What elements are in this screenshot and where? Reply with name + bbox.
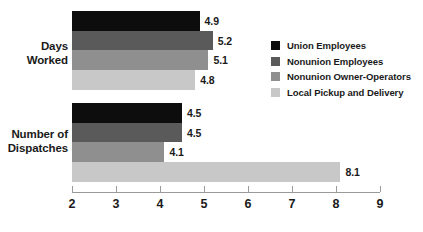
bar bbox=[72, 142, 164, 162]
legend-swatch-icon bbox=[271, 41, 280, 50]
bar bbox=[72, 123, 182, 143]
bar bbox=[72, 162, 340, 182]
legend-item[interactable]: Nonunion Owner-Operators bbox=[271, 69, 411, 85]
legend-item[interactable]: Local Pickup and Delivery bbox=[271, 85, 411, 101]
bar-value-label: 8.1 bbox=[345, 166, 359, 178]
axis-tick bbox=[204, 186, 205, 192]
x-axis-line bbox=[72, 192, 380, 193]
axis-tick bbox=[160, 186, 161, 192]
legend-swatch-icon bbox=[271, 57, 280, 66]
bar-row: 8.1 bbox=[72, 162, 380, 182]
legend-item[interactable]: Nonunion Employees bbox=[271, 54, 411, 70]
bar-row: 4.5 bbox=[72, 123, 380, 143]
axis-tick bbox=[380, 186, 381, 192]
axis-tick bbox=[248, 186, 249, 192]
legend-label: Nonunion Owner-Operators bbox=[287, 71, 411, 82]
legend-item[interactable]: Union Employees bbox=[271, 38, 411, 54]
bar-chart: Days Worked Number of Dispatches 4.95.25… bbox=[0, 0, 423, 232]
legend-label: Union Employees bbox=[287, 40, 366, 51]
bar bbox=[72, 31, 213, 51]
axis-tick-label: 7 bbox=[289, 197, 296, 211]
axis-tick-label: 6 bbox=[245, 197, 252, 211]
legend-swatch-icon bbox=[271, 88, 280, 97]
bar bbox=[72, 103, 182, 123]
bar-value-label: 5.2 bbox=[218, 35, 232, 47]
bar bbox=[72, 70, 195, 90]
category-label-number-of-dispatches: Number of Dispatches bbox=[8, 128, 68, 155]
bar-value-label: 4.9 bbox=[205, 15, 219, 27]
axis-tick bbox=[336, 186, 337, 192]
bar-row: 4.1 bbox=[72, 142, 380, 162]
axis-tick bbox=[292, 186, 293, 192]
bar bbox=[72, 11, 200, 31]
legend-label: Local Pickup and Delivery bbox=[287, 87, 404, 98]
bar-row: 4.9 bbox=[72, 11, 380, 31]
axis-tick-label: 2 bbox=[69, 197, 76, 211]
bar-value-label: 4.5 bbox=[187, 107, 201, 119]
axis-tick-label: 8 bbox=[333, 197, 340, 211]
legend: Union EmployeesNonunion EmployeesNonunio… bbox=[271, 38, 411, 100]
bar-row: 4.5 bbox=[72, 103, 380, 123]
bar-value-label: 4.5 bbox=[187, 127, 201, 139]
category-label-days-worked: Days Worked bbox=[27, 40, 68, 67]
legend-label: Nonunion Employees bbox=[287, 56, 383, 67]
axis-tick-label: 3 bbox=[113, 197, 120, 211]
plot-area: Days Worked Number of Dispatches 4.95.25… bbox=[0, 0, 423, 232]
axis-tick-label: 4 bbox=[157, 197, 164, 211]
bar-value-label: 4.8 bbox=[200, 74, 214, 86]
axis-tick bbox=[116, 186, 117, 192]
legend-swatch-icon bbox=[271, 72, 280, 81]
bar bbox=[72, 50, 208, 70]
axis-tick bbox=[72, 186, 73, 192]
axis-tick-label: 5 bbox=[201, 197, 208, 211]
bar-value-label: 5.1 bbox=[213, 54, 227, 66]
bar-value-label: 4.1 bbox=[169, 146, 183, 158]
axis-tick-label: 9 bbox=[377, 197, 384, 211]
